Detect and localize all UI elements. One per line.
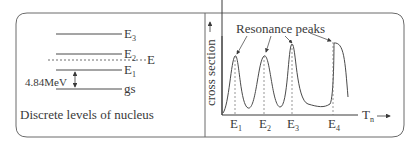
level-ground-state: gs [56, 81, 136, 96]
gap-arrow: 4.84MeV [25, 72, 75, 88]
left-caption: Discrete levels of nucleus [20, 107, 154, 122]
cross-section-curve [223, 43, 348, 113]
svg-text:E: E [147, 52, 155, 67]
level-e3: E3 [56, 26, 136, 43]
resonance-plot-panel: cross section Resonance peaks E1 E2 E3 E… [203, 0, 404, 137]
svg-text:E3: E3 [124, 26, 136, 43]
svg-text:cross section: cross section [203, 39, 218, 106]
svg-text:gs: gs [124, 81, 136, 96]
level-e1: E1 [56, 62, 136, 79]
x-axis-label: Tn [362, 107, 390, 124]
tick-e2: E2 [259, 116, 271, 133]
svg-text:4.84MeV: 4.84MeV [25, 76, 67, 88]
energy-level-panel: E3 E2 E E1 gs 4.84MeV Discrete levels of… [16, 13, 205, 137]
tick-e1: E1 [230, 116, 242, 133]
svg-text:Tn: Tn [362, 107, 374, 124]
svg-text:E1: E1 [124, 62, 136, 79]
svg-text:E2: E2 [124, 46, 136, 63]
tick-e3: E3 [287, 116, 299, 133]
tick-e4: E4 [328, 116, 340, 133]
level-e2: E2 [56, 46, 136, 63]
nuclear-resonance-diagram: E3 E2 E E1 gs 4.84MeV Discrete levels of… [0, 0, 418, 144]
